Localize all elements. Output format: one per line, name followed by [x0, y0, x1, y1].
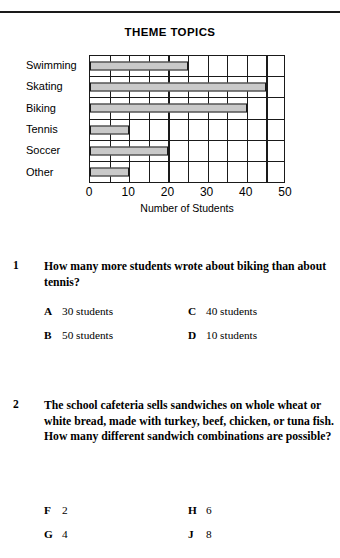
chart-x-tick: 10	[122, 185, 135, 199]
answer-option-d[interactable]: D10 students	[188, 329, 257, 341]
chart-category-label: Swimming	[26, 55, 88, 76]
option-row: F2H6	[0, 504, 340, 528]
answer-option-letter: D	[188, 329, 197, 341]
answer-option-j[interactable]: J8	[188, 528, 212, 540]
question-text: How many more students wrote about bikin…	[44, 259, 334, 290]
answer-option-letter: A	[44, 305, 53, 317]
option-row: A30 studentsC40 students	[0, 305, 340, 329]
question-text: The school cafeteria sells sandwiches on…	[44, 398, 334, 445]
theme-topics-chart: THEME TOPICS SwimmingSkatingBikingTennis…	[0, 26, 340, 226]
question-1-options: A30 studentsC40 studentsB50 studentsD10 …	[0, 305, 340, 353]
answer-option-c[interactable]: C40 students	[188, 305, 257, 317]
chart-category-label: Other	[26, 162, 88, 183]
answer-option-text: 2	[62, 504, 68, 516]
chart-bar	[90, 83, 266, 92]
chart-bar	[90, 146, 168, 155]
chart-x-tick: 0	[86, 185, 93, 199]
chart-category-label: Tennis	[26, 119, 88, 140]
question-2-options: F2H6G4J8	[0, 504, 340, 552]
page-top-rule	[0, 11, 340, 13]
answer-option-letter: J	[188, 528, 197, 540]
answer-option-text: 40 students	[206, 305, 257, 317]
chart-x-tick: 30	[200, 185, 213, 199]
answer-option-h[interactable]: H6	[188, 504, 212, 516]
answer-option-a[interactable]: A30 students	[44, 305, 113, 317]
chart-category-labels: SwimmingSkatingBikingTennisSoccerOther	[26, 55, 88, 183]
option-row: B50 studentsD10 students	[0, 329, 340, 353]
chart-bar	[90, 167, 129, 176]
answer-option-g[interactable]: G4	[44, 528, 68, 540]
answer-option-text: 50 students	[62, 329, 113, 341]
question-number: 2	[13, 398, 19, 410]
chart-plot-area	[89, 55, 285, 183]
answer-option-f[interactable]: F2	[44, 504, 68, 516]
chart-bar-row	[90, 77, 284, 98]
chart-bar-row	[90, 98, 284, 119]
answer-option-letter: G	[44, 528, 53, 540]
chart-bar	[90, 125, 129, 134]
chart-bar	[90, 62, 188, 71]
question-number: 1	[13, 259, 19, 271]
chart-x-axis-title: Number of Students	[89, 202, 285, 214]
answer-option-letter: C	[188, 305, 197, 317]
chart-x-tick: 40	[239, 185, 252, 199]
chart-bar	[90, 104, 247, 113]
answer-option-text: 4	[62, 528, 68, 540]
answer-option-letter: F	[44, 504, 53, 516]
option-row: G4J8	[0, 528, 340, 552]
chart-bar-row	[90, 141, 284, 162]
chart-x-tick-labels: 01020304050	[89, 185, 285, 201]
answer-option-b[interactable]: B50 students	[44, 329, 113, 341]
chart-bar-row	[90, 56, 284, 77]
answer-option-text: 8	[206, 528, 212, 540]
chart-title: THEME TOPICS	[0, 26, 340, 38]
chart-bar-row	[90, 162, 284, 182]
answer-option-text: 10 students	[206, 329, 257, 341]
chart-bar-row	[90, 120, 284, 141]
chart-category-label: Soccer	[26, 140, 88, 161]
chart-bar-rows	[90, 56, 284, 182]
answer-option-letter: H	[188, 504, 197, 516]
answer-option-letter: B	[44, 329, 53, 341]
chart-x-tick: 50	[278, 185, 291, 199]
answer-option-text: 6	[206, 504, 212, 516]
chart-x-tick: 20	[161, 185, 174, 199]
chart-category-label: Biking	[26, 98, 88, 119]
chart-category-label: Skating	[26, 76, 88, 97]
answer-option-text: 30 students	[62, 305, 113, 317]
